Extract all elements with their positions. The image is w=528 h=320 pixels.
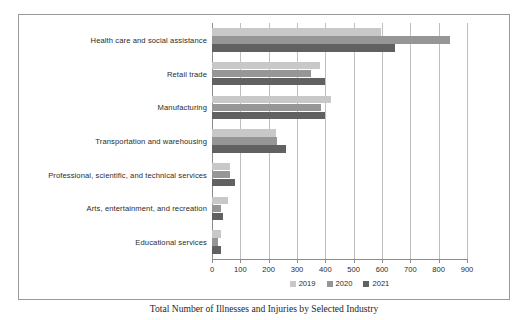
chart-legend: 2019 2020 2021 [212, 279, 467, 288]
x-tick-label-700: 700 [404, 265, 417, 274]
x-tick-800 [439, 259, 440, 263]
x-tick-400 [325, 259, 326, 263]
bar-2019[interactable] [212, 62, 320, 69]
legend-label-2020: 2020 [336, 279, 353, 288]
legend-item-2021[interactable]: 2021 [363, 279, 389, 288]
bar-2020[interactable] [212, 137, 277, 144]
bar-group: Professional, scientific, and technical … [212, 158, 467, 192]
bar-2021[interactable] [212, 213, 223, 220]
legend-item-2020[interactable]: 2020 [327, 279, 353, 288]
chart-frame: Health care and social assistanceRetail … [18, 14, 510, 300]
x-axis-line [212, 259, 467, 260]
plot-area: Health care and social assistanceRetail … [212, 23, 467, 259]
category-label: Educational services [135, 238, 207, 247]
x-tick-200 [269, 259, 270, 263]
x-tick-900 [467, 259, 468, 263]
x-tick-label-200: 200 [262, 265, 275, 274]
bar-group: Retail trade [212, 57, 467, 91]
x-tick-label-900: 900 [461, 265, 474, 274]
bar-group: Arts, entertainment, and recreation [212, 192, 467, 226]
x-tick-100 [240, 259, 241, 263]
bar-2019[interactable] [212, 230, 221, 237]
x-tick-label-0: 0 [210, 265, 214, 274]
bar-group: Health care and social assistance [212, 23, 467, 57]
x-tick-label-300: 300 [291, 265, 304, 274]
bar-2019[interactable] [212, 163, 230, 170]
category-label: Arts, entertainment, and recreation [87, 204, 207, 213]
bar-2020[interactable] [212, 104, 321, 111]
gridline-900 [467, 23, 468, 259]
bar-2019[interactable] [212, 129, 276, 136]
legend-swatch-2021-icon [363, 281, 369, 287]
bar-2021[interactable] [212, 44, 395, 51]
bar-group: Manufacturing [212, 90, 467, 124]
x-tick-700 [410, 259, 411, 263]
x-tick-500 [354, 259, 355, 263]
legend-swatch-2020-icon [327, 281, 333, 287]
x-tick-0 [212, 259, 213, 263]
bar-groups: Health care and social assistanceRetail … [212, 23, 467, 259]
x-tick-300 [297, 259, 298, 263]
x-tick-label-500: 500 [347, 265, 360, 274]
x-tick-600 [382, 259, 383, 263]
x-tick-label-800: 800 [432, 265, 445, 274]
category-label: Manufacturing [158, 103, 207, 112]
bar-2020[interactable] [212, 70, 311, 77]
x-tick-label-600: 600 [376, 265, 389, 274]
category-label: Transportation and warehousing [95, 136, 207, 145]
category-label: Retail trade [167, 69, 207, 78]
legend-label-2021: 2021 [372, 279, 389, 288]
category-label: Health care and social assistance [91, 35, 207, 44]
bar-2019[interactable] [212, 28, 381, 35]
bar-2021[interactable] [212, 145, 286, 152]
x-tick-label-400: 400 [319, 265, 332, 274]
bar-group: Transportation and warehousing [212, 124, 467, 158]
bar-2019[interactable] [212, 96, 331, 103]
bar-2019[interactable] [212, 197, 228, 204]
legend-swatch-2019-icon [290, 281, 296, 287]
bar-2021[interactable] [212, 78, 325, 85]
bar-2020[interactable] [212, 205, 221, 212]
legend-label-2019: 2019 [299, 279, 316, 288]
x-tick-label-100: 100 [234, 265, 247, 274]
bar-2020[interactable] [212, 36, 450, 43]
bar-2021[interactable] [212, 246, 221, 253]
bar-2021[interactable] [212, 179, 235, 186]
category-label: Professional, scientific, and technical … [48, 170, 207, 179]
bar-2020[interactable] [212, 238, 218, 245]
bar-2021[interactable] [212, 112, 325, 119]
chart-figure: Health care and social assistanceRetail … [0, 0, 528, 320]
bar-group: Educational services [212, 225, 467, 259]
bar-2020[interactable] [212, 171, 230, 178]
figure-caption: Total Number of Illnesses and Injuries b… [0, 303, 528, 314]
legend-item-2019[interactable]: 2019 [290, 279, 316, 288]
